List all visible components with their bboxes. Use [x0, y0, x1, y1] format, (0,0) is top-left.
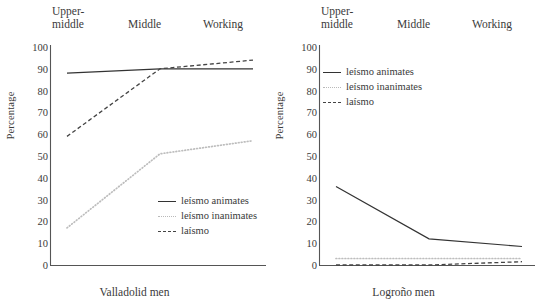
x-axis-title-left: Valladolid men [0, 286, 269, 298]
panel-logrono: Percentage 100 90 80 70 60 50 40 30 20 1… [269, 0, 538, 304]
series-line-leismo-animates [336, 187, 522, 247]
legend-key-solid-icon [323, 68, 341, 76]
x-axis-title-right: Logroño men [269, 286, 538, 298]
plot-area-left [0, 0, 269, 304]
legend-item-laismo: laísmo [158, 223, 257, 238]
legend-key-dashed-icon [323, 98, 341, 106]
legend-label: leísmo inanimates [181, 210, 257, 221]
legend-item-leismo-animates: leísmo animates [323, 64, 422, 79]
legend-key-solid-icon [158, 197, 176, 205]
legend-label: leísmo animates [181, 195, 249, 206]
legend-key-dotted-icon [158, 212, 176, 220]
figure-two-panel-line-charts: Percentage 100 90 80 70 60 50 40 30 20 1… [0, 0, 538, 304]
legend-key-dotted-icon [323, 83, 341, 91]
legend-item-laismo: laísmo [323, 94, 422, 109]
legend-item-leismo-inanimates: leísmo inanimates [158, 208, 257, 223]
legend-item-leismo-inanimates: leísmo inanimates [323, 79, 422, 94]
legend-left: leísmo animates leísmo inanimates laísmo [158, 193, 257, 238]
plot-area-right [269, 0, 538, 304]
legend-label: laísmo [181, 225, 209, 236]
legend-item-leismo-animates: leísmo animates [158, 193, 257, 208]
legend-label: leísmo inanimates [346, 81, 422, 92]
series-line-laismo [336, 262, 522, 265]
legend-key-dashed-icon [158, 227, 176, 235]
legend-label: leísmo animates [346, 66, 414, 77]
legend-label: laísmo [346, 96, 374, 107]
legend-right: leísmo animates leísmo inanimates laísmo [323, 64, 422, 109]
panel-valladolid: Percentage 100 90 80 70 60 50 40 30 20 1… [0, 0, 269, 304]
